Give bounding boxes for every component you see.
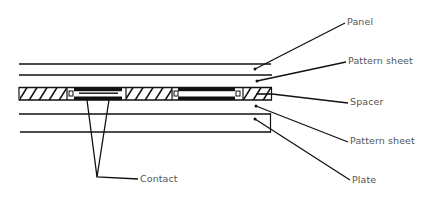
label-plate: Plate [352, 175, 376, 185]
leader-contact [87, 100, 138, 179]
label-pattern-sheet-top: Pattern sheet [348, 56, 413, 66]
contact-right [174, 88, 240, 100]
leader-pattern-sheet-bottom [256, 106, 348, 142]
leader-pattern-sheet-top [257, 62, 346, 81]
leader-lines [87, 23, 350, 180]
leader-spacer [272, 94, 348, 103]
plate-layer [20, 113, 271, 133]
label-panel: Panel [347, 17, 373, 27]
leader-contact-2 [97, 100, 109, 177]
membrane-switch-diagram: Panel Pattern sheet Spacer Pattern sheet… [0, 0, 428, 197]
label-contact: Contact [140, 174, 178, 184]
label-pattern-sheet-bottom: Pattern sheet [350, 136, 415, 146]
contact-left [69, 88, 122, 100]
label-spacer: Spacer [350, 97, 383, 107]
leader-plate [255, 119, 350, 180]
leader-panel [255, 23, 345, 69]
